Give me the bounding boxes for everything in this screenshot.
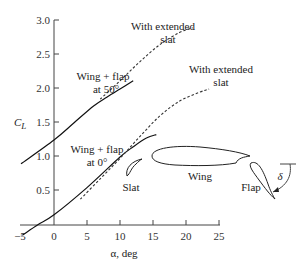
annotation-flap0-2: at 0° [87, 156, 108, 168]
label-delta: δ [277, 170, 283, 182]
y-tick-label: 2.0 [36, 82, 50, 94]
label-wing: Wing [188, 170, 212, 182]
x-tick-label: 15 [148, 230, 160, 242]
slat-shape [127, 159, 142, 176]
wing-shape [152, 146, 250, 165]
lift-coefficient-chart: 3.0 2.5 2.0 1.5 1.0 0.5 −5 0 5 10 15 20 … [0, 0, 308, 270]
axes [20, 20, 220, 225]
label-flap: Flap [241, 181, 261, 193]
delta-arrow-icon [273, 187, 279, 192]
y-tick-labels: 3.0 2.5 2.0 1.5 1.0 0.5 [36, 14, 50, 196]
annotation-flap50: Wing + flap [77, 70, 130, 82]
x-tick-label: −5 [14, 230, 26, 242]
x-tick-label: 10 [115, 230, 127, 242]
y-tick-label: 1.5 [36, 116, 50, 128]
annotation-flap50-2: at 50° [93, 83, 119, 95]
x-tick-labels: −5 0 5 10 15 20 25 [14, 230, 225, 242]
annotation-flap0: Wing + flap [71, 143, 124, 155]
label-slat: Slat [122, 181, 139, 193]
y-tick-label: 0.5 [36, 184, 50, 196]
y-tick-label: 3.0 [36, 14, 50, 26]
annotation-slat-upper: With extended [131, 20, 196, 32]
y-tick-label: 2.5 [36, 48, 50, 60]
x-axis-label: α, deg [110, 247, 138, 259]
y-axis-label: CL [14, 116, 26, 131]
x-tick-label: 25 [214, 230, 226, 242]
x-tick-label: 20 [181, 230, 193, 242]
annotation-slat-lower-2: slat [213, 76, 228, 88]
airfoil-sketch: Slat Wing Flap δ [122, 146, 296, 199]
annotation-slat-upper-2: slat [160, 33, 175, 45]
x-tick-label: 5 [84, 230, 90, 242]
x-tick-label: 0 [51, 230, 57, 242]
annotation-slat-lower: With extended [189, 63, 254, 75]
